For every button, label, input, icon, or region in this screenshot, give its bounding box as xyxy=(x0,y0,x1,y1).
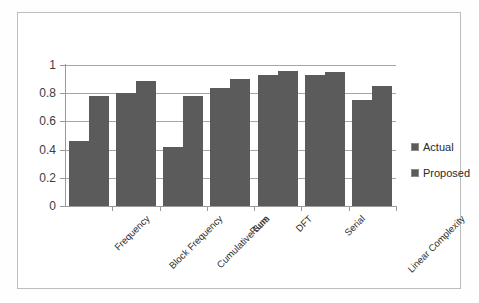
bar-actual[interactable] xyxy=(163,147,183,206)
bar-proposed[interactable] xyxy=(278,71,298,206)
y-axis-tick-label: 0.6 xyxy=(39,114,56,128)
x-axis-category-label: Linear Complexity xyxy=(405,213,467,275)
y-axis-tick-label: 1 xyxy=(49,58,56,72)
bar-group xyxy=(301,65,348,206)
x-axis-tick xyxy=(396,206,397,211)
y-axis-line xyxy=(65,64,66,207)
bar-proposed[interactable] xyxy=(372,86,392,206)
x-axis-category-label: DFT xyxy=(294,213,315,234)
x-axis-tick xyxy=(301,206,302,211)
legend-item-proposed[interactable]: Proposed xyxy=(411,167,470,179)
y-axis-tick-label: 0.4 xyxy=(39,143,56,157)
y-axis-tick-label: 0.2 xyxy=(39,171,56,185)
plot-area: 00.20.40.60.81 xyxy=(65,65,396,206)
bar-actual[interactable] xyxy=(258,75,278,206)
bar-group xyxy=(349,65,396,206)
screenshot-root: 00.20.40.60.81 ActualProposed FrequencyB… xyxy=(0,0,479,303)
x-axis-tick xyxy=(207,206,208,211)
x-axis-tick xyxy=(254,206,255,211)
bar-actual[interactable] xyxy=(116,93,136,206)
bar-group xyxy=(207,65,254,206)
bar-proposed[interactable] xyxy=(230,79,250,206)
y-axis-tick-label: 0.8 xyxy=(39,86,56,100)
chart-frame: 00.20.40.60.81 ActualProposed FrequencyB… xyxy=(17,12,461,289)
legend-label: Actual xyxy=(423,141,454,153)
bar-actual[interactable] xyxy=(352,100,372,206)
bar-proposed[interactable] xyxy=(89,96,109,206)
bar-proposed[interactable] xyxy=(136,81,156,206)
x-axis-tick xyxy=(349,206,350,211)
y-axis-tick-label: 0 xyxy=(49,199,56,213)
x-axis-category-label: Frequency xyxy=(112,213,152,253)
x-axis-line xyxy=(65,206,396,207)
bar-group xyxy=(160,65,207,206)
legend-item-actual[interactable]: Actual xyxy=(411,141,470,153)
bar-actual[interactable] xyxy=(69,141,89,206)
x-axis-tick xyxy=(160,206,161,211)
x-axis-category-label: Serial xyxy=(343,213,368,238)
bar-actual[interactable] xyxy=(210,88,230,206)
x-axis-tick xyxy=(112,206,113,211)
bar-proposed[interactable] xyxy=(183,96,203,206)
bar-group xyxy=(254,65,301,206)
legend-swatch-icon xyxy=(411,143,419,151)
bar-actual[interactable] xyxy=(305,75,325,206)
legend: ActualProposed xyxy=(411,141,470,193)
bar-group xyxy=(112,65,159,206)
legend-swatch-icon xyxy=(411,169,419,177)
bar-group xyxy=(65,65,112,206)
legend-label: Proposed xyxy=(423,167,470,179)
bar-proposed[interactable] xyxy=(325,72,345,206)
